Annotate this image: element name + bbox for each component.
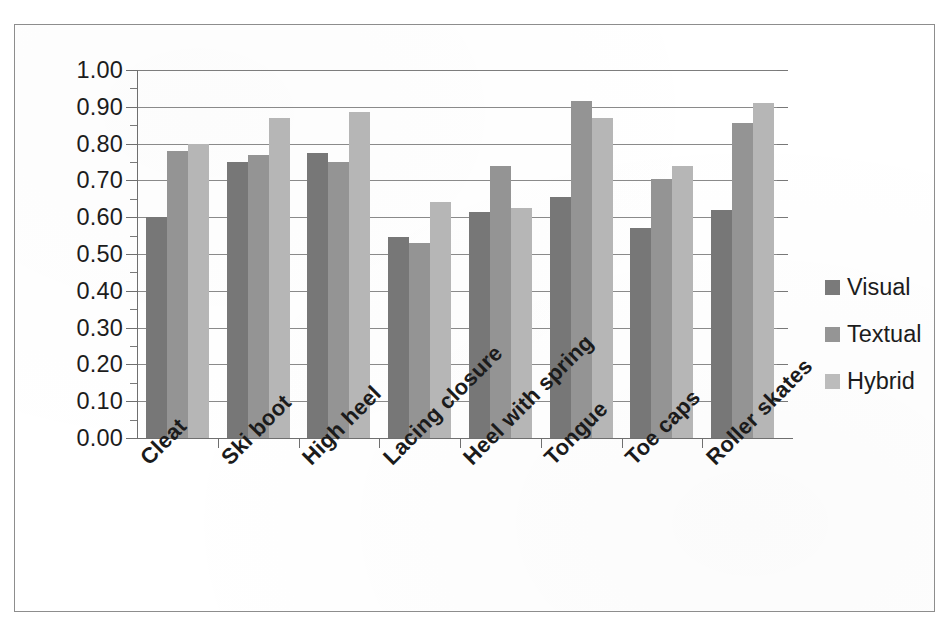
bar-group [218,70,299,438]
y-axis-major-tick [126,70,137,71]
legend-swatch-icon [825,327,840,342]
bar-hybrid [592,118,613,438]
bar-textual [167,151,188,438]
y-axis-label: 0.00 [37,425,123,452]
bar-group [137,70,218,438]
y-axis-major-tick [126,364,137,365]
y-axis-minor-tick [130,420,137,421]
y-axis-minor-tick [130,346,137,347]
bar-textual [732,123,753,438]
y-axis-label: 0.30 [37,314,123,341]
y-axis-minor-tick [130,236,137,237]
chart-legend: VisualTextualHybrid [825,273,945,414]
legend-label: Hybrid [847,367,915,395]
y-axis-major-tick [126,144,137,145]
y-axis-label: 0.40 [37,277,123,304]
bar-visual [469,212,490,438]
bar-visual [146,217,167,438]
y-axis-minor-tick [130,309,137,310]
y-axis-label: 0.90 [37,93,123,120]
bar-visual [388,237,409,438]
bar-visual [550,197,571,438]
bar-visual [307,153,328,438]
x-axis-tick [379,438,380,448]
y-axis-major-tick [126,180,137,181]
y-axis-major-tick [126,107,137,108]
y-axis-minor-tick [130,199,137,200]
legend-item-visual[interactable]: Visual [825,273,945,320]
legend-label: Textual [847,320,921,348]
y-axis-label: 0.50 [37,241,123,268]
x-axis-tick [299,438,300,448]
y-axis-label: 0.70 [37,167,123,194]
legend-item-hybrid[interactable]: Hybrid [825,367,945,414]
legend-swatch-icon [825,280,840,295]
x-axis-tick [541,438,542,448]
y-axis-tick-labels: 0.000.100.200.300.400.500.600.700.800.90… [29,70,123,438]
bar-visual [227,162,248,438]
bar-visual [630,228,651,438]
x-axis-tick [218,438,219,448]
y-axis-label: 0.60 [37,204,123,231]
bar-textual [248,155,269,438]
bar-textual [328,162,349,438]
legend-swatch-icon [825,374,840,389]
bar-hybrid [188,144,209,438]
x-axis-tick [622,438,623,448]
legend-item-textual[interactable]: Textual [825,320,945,367]
y-axis-minor-tick [130,383,137,384]
y-axis-label: 1.00 [37,57,123,84]
y-axis-label: 0.20 [37,351,123,378]
legend-label: Visual [847,273,911,301]
chart-frame: 0.000.100.200.300.400.500.600.700.800.90… [14,24,935,612]
y-axis-major-tick [126,328,137,329]
y-axis-minor-tick [130,162,137,163]
x-axis-tick [460,438,461,448]
bar-textual [490,166,511,438]
x-axis-tick [702,438,703,448]
y-axis-major-tick [126,217,137,218]
y-axis-minor-tick [130,272,137,273]
y-axis-major-tick [126,254,137,255]
y-axis-label: 0.80 [37,130,123,157]
y-axis-major-tick [126,401,137,402]
bar-textual [651,179,672,438]
bar-visual [711,210,732,438]
y-axis-minor-tick [130,125,137,126]
y-axis-major-tick [126,291,137,292]
y-axis-label: 0.10 [37,388,123,415]
bar-group [622,70,703,438]
y-axis-minor-tick [130,88,137,89]
bar-textual [571,101,592,438]
x-axis-line [127,438,793,439]
